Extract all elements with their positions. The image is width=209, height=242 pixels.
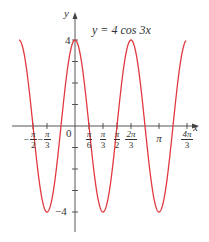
origin-label: 0 [66,128,72,139]
x-tick-label: π6 [86,130,93,150]
y-min-label: −4 [55,206,67,217]
x-tick-label: −π2 [23,130,36,150]
y-max-label: 4 [65,35,71,46]
x-axis-label: x [193,122,198,133]
x-tick-label: −π3 [37,130,50,150]
x-tick-label: π3 [100,130,107,150]
axes [12,12,199,232]
y-axis-arrow-icon [73,12,78,19]
x-tick-label: 2π3 [125,130,136,150]
y-axis-label: y [64,8,69,19]
x-tick-label: π [155,133,163,144]
x-tick-label: π2 [114,130,121,150]
chart: y x y = 4 cos 3x 4 −4 0 −π2−π3π6π3π22π3π… [0,0,209,242]
equation-label: y = 4 cos 3x [92,24,151,36]
x-tick-label: 4π3 [181,130,192,150]
